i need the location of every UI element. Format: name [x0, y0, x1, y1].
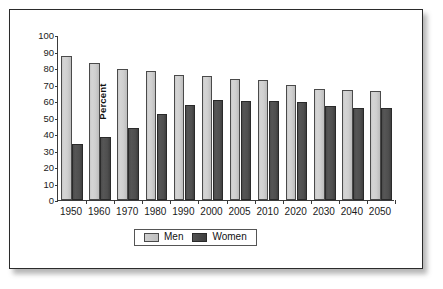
bar-women-2050 — [381, 108, 392, 200]
legend-label-men: Men — [164, 232, 183, 242]
bar-women-2000 — [213, 100, 224, 200]
bar-group — [170, 36, 198, 200]
y-tick-mark — [55, 201, 58, 202]
x-tick-mark — [227, 200, 228, 204]
x-tick-mark — [142, 200, 143, 204]
bar-women-1970 — [128, 128, 139, 200]
x-tick-label: 1990 — [172, 206, 194, 217]
bar-women-2010 — [269, 101, 280, 200]
bar-women-2030 — [325, 106, 336, 200]
bar-men-2005 — [230, 79, 241, 200]
bar-women-2040 — [353, 108, 364, 200]
bar-group — [255, 36, 283, 200]
x-tick-mark — [198, 200, 199, 204]
bar-men-2040 — [342, 90, 353, 200]
y-tick-label: 80 — [43, 64, 54, 74]
bar-men-2050 — [370, 91, 381, 200]
x-tick-mark — [283, 200, 284, 204]
x-tick-label: 2010 — [257, 206, 279, 217]
x-tick-mark — [255, 200, 256, 204]
x-tick-label: 2005 — [228, 206, 250, 217]
y-tick-label: 20 — [43, 163, 54, 173]
bar-group — [142, 36, 170, 200]
y-tick-label: 100 — [38, 31, 54, 41]
bar-men-2010 — [258, 80, 269, 200]
bar-women-1980 — [157, 114, 168, 200]
y-tick-label: 30 — [43, 147, 54, 157]
legend-item-women: Women — [192, 232, 246, 242]
bar-men-1950 — [61, 56, 72, 200]
y-tick-label: 0 — [49, 196, 54, 206]
bar-men-1980 — [146, 71, 157, 200]
legend-label-women: Women — [212, 232, 246, 242]
x-tick-mark — [367, 200, 368, 204]
bar-group — [227, 36, 255, 200]
bar-group — [58, 36, 86, 200]
x-tick-mark — [170, 200, 171, 204]
x-tick-label: 1970 — [116, 206, 138, 217]
bar-men-1990 — [174, 75, 185, 200]
bar-women-1950 — [72, 144, 83, 200]
chart-page: Percent 1009080706050403020100 195019601… — [0, 0, 443, 289]
bar-women-1990 — [185, 105, 196, 200]
bar-group — [86, 36, 114, 200]
bar-group — [283, 36, 311, 200]
x-tick-mark — [311, 200, 312, 204]
y-tick-label: 50 — [43, 114, 54, 124]
x-tick-label: 1960 — [88, 206, 110, 217]
y-tick-label: 70 — [43, 81, 54, 91]
x-tick-label: 2050 — [369, 206, 391, 217]
y-tick-label: 40 — [43, 130, 54, 140]
bar-group — [367, 36, 395, 200]
x-tick-mark — [114, 200, 115, 204]
chart-legend: Men Women — [134, 229, 257, 246]
legend-item-men: Men — [144, 232, 183, 242]
x-tick-label: 2020 — [285, 206, 307, 217]
bar-women-2020 — [297, 102, 308, 200]
x-tick-label: 1980 — [144, 206, 166, 217]
plot-area: Percent 1009080706050403020100 — [57, 36, 394, 201]
bar-group — [339, 36, 367, 200]
bar-men-2000 — [202, 76, 213, 200]
x-tick-label: 2030 — [313, 206, 335, 217]
bar-men-2020 — [286, 85, 297, 201]
legend-swatch-women-icon — [192, 233, 207, 242]
x-tick-label: 2040 — [341, 206, 363, 217]
bar-group — [311, 36, 339, 200]
x-tick-label: 1950 — [60, 206, 82, 217]
x-tick-mark — [339, 200, 340, 204]
bar-men-2030 — [314, 89, 325, 200]
y-tick-label: 60 — [43, 97, 54, 107]
bar-women-1960 — [100, 137, 111, 200]
x-tick-mark — [86, 200, 87, 204]
bar-women-2005 — [241, 101, 252, 200]
y-tick-label: 10 — [43, 180, 54, 190]
bar-group — [114, 36, 142, 200]
bar-men-1960 — [89, 63, 100, 200]
legend-swatch-men-icon — [144, 233, 159, 242]
bar-men-1970 — [117, 69, 128, 200]
bar-group — [198, 36, 226, 200]
chart-card: Percent 1009080706050403020100 195019601… — [9, 9, 423, 269]
x-tick-mark — [395, 200, 396, 204]
y-tick-label: 90 — [43, 48, 54, 58]
x-tick-label: 2000 — [200, 206, 222, 217]
